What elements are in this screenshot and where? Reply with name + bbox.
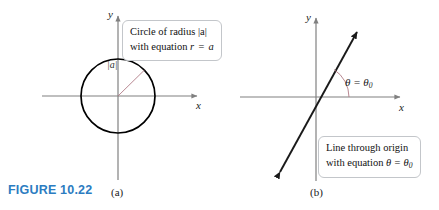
- panel-b-x-axis-label: x: [399, 101, 404, 113]
- panel-a-y-axis-label: y: [108, 8, 113, 20]
- panel-b-callout-line1: Line through origin: [326, 141, 413, 156]
- panel-b-callout-equation-subscript: 0: [409, 161, 413, 170]
- figure-container: y x y x |a| θ = θ0 Circle of radius |a| …: [0, 0, 439, 210]
- panel-b-caption: (b): [310, 186, 323, 198]
- figure-number-label: FIGURE 10.22: [8, 183, 92, 197]
- panel-a-callout: Circle of radius |a| with equation r = a: [122, 20, 222, 61]
- panel-b-angle-label: θ = θ0: [345, 76, 373, 90]
- panel-a-callout-line2-prefix: with equation: [130, 41, 190, 52]
- panel-b-callout: Line through origin with equation θ = θ0: [318, 136, 421, 178]
- panel-a-callout-line2: with equation r = a: [130, 40, 214, 55]
- panel-a-callout-line1: Circle of radius |a|: [130, 25, 214, 40]
- panel-a-callout-equation: r = a: [190, 41, 214, 52]
- panel-a-x-axis-label: x: [196, 99, 201, 111]
- panel-a-radius-segment: [118, 70, 145, 96]
- panel-a-caption: (a): [111, 186, 123, 198]
- panel-b-callout-line2-prefix: with equation: [326, 157, 386, 168]
- panel-b-angle-label-subscript: 0: [369, 81, 373, 90]
- panel-b-callout-equation: θ = θ: [386, 157, 409, 168]
- panel-b-callout-line2: with equation θ = θ0: [326, 156, 413, 172]
- panel-a-radius-label: |a|: [107, 59, 118, 70]
- panel-b-angle-label-text: θ = θ: [345, 76, 369, 88]
- panel-b-y-axis-label: y: [306, 11, 311, 23]
